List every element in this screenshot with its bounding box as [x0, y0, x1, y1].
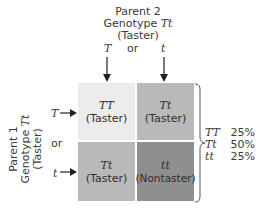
ratio-row: tt 25% — [205, 151, 255, 163]
parent2-allele-T: T — [104, 43, 111, 55]
parent2-label: Parent 2 Genotype Tt (Taster) — [96, 6, 180, 42]
parent1-phenotype: (Taster) — [32, 107, 44, 191]
parent2-allele-t: t — [161, 43, 165, 55]
parent2-genotype: Tt — [161, 17, 173, 30]
arrow-right-icon — [60, 167, 78, 177]
parent2-or: or — [127, 43, 138, 55]
parent1-allele-t: t — [53, 168, 57, 180]
parent1-allele-T: T — [51, 108, 58, 120]
parent2-phenotype: (Taster) — [96, 30, 180, 42]
punnett-cell-Tt-bottom: Tt (Taster) — [78, 142, 135, 201]
arrow-down-icon — [158, 57, 170, 83]
ratio-list: TT 25% Tt 50% tt 25% — [205, 127, 255, 163]
parent1-or: or — [51, 138, 62, 150]
punnett-cell-Tt-top: Tt (Taster) — [137, 83, 194, 140]
arrow-down-icon — [101, 57, 113, 83]
punnett-cell-tt: tt (Nontaster) — [137, 142, 194, 201]
parent1-label: Parent 1 Genotype Tt (Taster) — [8, 107, 44, 191]
punnett-cell-TT: TT (Taster) — [78, 83, 135, 140]
arrow-right-icon — [60, 108, 78, 118]
parent1-genotype: Tt — [19, 115, 32, 127]
